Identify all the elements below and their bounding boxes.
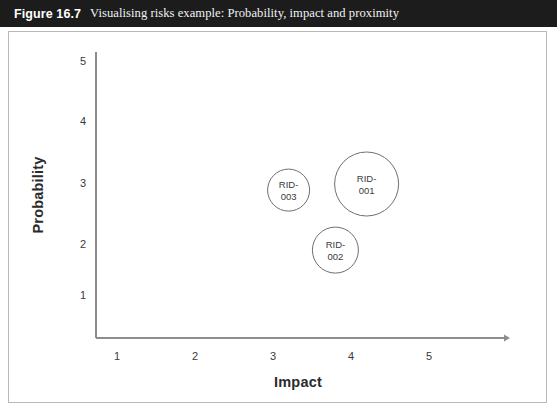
x-tick-label-5: 5 (414, 350, 444, 363)
x-tick-label-3: 3 (258, 350, 288, 363)
y-tick-label-5: 5 (62, 55, 86, 68)
figure-container: Figure 16.7 Visualising risks example: P… (0, 0, 557, 412)
y-tick-label-3: 3 (62, 177, 86, 190)
scatter-chart: 1234512345 RID-001RID-003RID-002 Impact … (0, 0, 557, 412)
x-axis-title-text: Impact (274, 374, 322, 390)
risk-bubble-rid-001[interactable] (335, 152, 399, 216)
x-tick-label-2: 2 (180, 350, 210, 363)
y-axis-title: Probability (30, 156, 46, 233)
y-tick-label-4: 4 (62, 115, 86, 128)
x-axis-arrowhead (504, 335, 510, 342)
risk-bubble-rid-002[interactable] (312, 227, 358, 273)
y-tick-label-1: 1 (62, 289, 86, 302)
risk-bubble-rid-003[interactable] (268, 169, 310, 211)
x-tick-label-1: 1 (102, 350, 132, 363)
x-tick-label-4: 4 (336, 350, 366, 363)
x-axis-title: Impact (0, 374, 557, 390)
bubbles-group (268, 152, 399, 273)
y-tick-label-2: 2 (62, 238, 86, 251)
